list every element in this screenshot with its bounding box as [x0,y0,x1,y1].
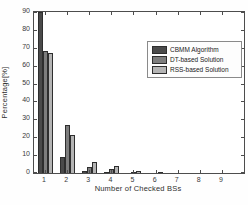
y-tick-mark [241,12,244,13]
x-tick-mark [89,12,90,15]
x-tick-mark [200,12,201,15]
x-tick-mark [178,170,179,173]
y-tick-label: 60 [10,61,30,69]
legend-entry-cbmm: CBMM Algorithm [152,45,237,55]
legend-swatch-rss-icon [152,66,167,74]
y-tick-label: 30 [10,114,30,122]
y-tick-label: 90 [10,7,30,15]
x-tick-mark [222,12,223,15]
x-tick-label: 7 [170,176,184,184]
x-tick-label: 5 [125,176,139,184]
y-tick-label: 50 [10,79,30,87]
x-tick-mark [133,12,134,15]
legend-label-dt: DT-based Solution [170,56,223,64]
x-tick-mark [222,170,223,173]
y-axis-label: Percentage[%] [0,53,9,133]
bar-rss-based-x3 [92,162,97,173]
y-tick-label: 20 [10,132,30,140]
y-tick-label: 0 [10,168,30,176]
x-tick-mark [111,170,112,173]
bar-rss-based-x2 [70,135,75,173]
x-tick-mark [156,170,157,173]
y-tick-mark [241,30,244,31]
y-tick-mark [34,48,37,49]
x-tick-mark [67,12,68,15]
x-tick-mark [133,170,134,173]
y-tick-mark [34,119,37,120]
y-tick-label: 40 [10,96,30,104]
legend-label-rss: RSS-based Solution [170,66,229,74]
x-tick-mark [45,12,46,15]
legend-swatch-cbmm-icon [152,46,167,54]
legend: CBMM Algorithm DT-based Solution RSS-bas… [147,41,242,78]
legend-entry-rss: RSS-based Solution [152,65,237,75]
y-tick-mark [241,101,244,102]
x-tick-mark [200,170,201,173]
y-tick-mark [34,12,37,13]
y-tick-mark [34,84,37,85]
y-tick-mark [34,30,37,31]
bar-rss-based-x4 [114,166,119,173]
legend-entry-dt: DT-based Solution [152,55,237,65]
x-tick-mark [178,12,179,15]
x-tick-label: 4 [103,176,117,184]
y-tick-mark [241,119,244,120]
x-tick-label: 2 [59,176,73,184]
x-tick-mark [45,170,46,173]
x-tick-label: 1 [37,176,51,184]
y-tick-mark [34,101,37,102]
y-tick-mark [241,172,244,173]
bar-rss-based-x1 [48,53,53,173]
x-tick-mark [67,170,68,173]
bar-rss-based-x6 [158,172,163,173]
y-tick-mark [241,155,244,156]
x-tick-label: 8 [192,176,206,184]
y-tick-mark [241,84,244,85]
x-tick-mark [89,170,90,173]
x-tick-label: 6 [148,176,162,184]
y-tick-mark [34,155,37,156]
legend-swatch-dt-icon [152,56,167,64]
y-tick-label: 80 [10,25,30,33]
y-tick-mark [34,66,37,67]
bar-chart-figure: Percentage[%] 0102030405060708090 123456… [0,0,248,205]
y-tick-mark [241,137,244,138]
x-tick-label: 3 [81,176,95,184]
bar-rss-based-x5 [136,171,141,173]
y-tick-mark [34,172,37,173]
y-tick-label: 10 [10,150,30,158]
x-tick-label: 9 [214,176,228,184]
x-tick-mark [111,12,112,15]
x-tick-mark [156,12,157,15]
plot-area [33,11,245,174]
y-tick-label: 70 [10,43,30,51]
x-axis-label: Number of Checked BSs [33,184,243,193]
y-tick-mark [34,137,37,138]
legend-label-cbmm: CBMM Algorithm [170,46,219,54]
